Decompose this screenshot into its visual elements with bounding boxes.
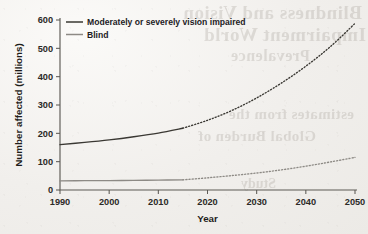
series-observed-1 [60,180,183,181]
x-axis-ticks: 1990200020102020203020402050 [50,190,365,207]
chart-canvas: 0100200300400500600 19902000201020202030… [0,0,368,234]
data-series-group [60,23,355,181]
x-tick-label: 2010 [148,197,168,207]
legend-label-1: Blind [87,30,108,40]
x-tick-label: 2040 [296,197,316,207]
x-axis-title: Year [197,213,218,224]
y-tick-label: 100 [38,157,53,167]
y-tick-label: 500 [38,44,53,54]
y-axis-title: Number affected (millions) [13,43,24,167]
chart-legend: Moderately or severely vision impairedBl… [66,17,246,39]
y-tick-label: 300 [38,100,53,110]
y-tick-label: 0 [48,185,53,195]
series-projected-1 [183,157,355,179]
series-observed-0 [60,128,183,144]
x-tick-label: 1990 [50,197,70,207]
y-tick-label: 600 [38,15,53,25]
axis-spines [60,18,357,190]
legend-label-0: Moderately or severely vision impaired [87,17,246,27]
x-tick-label: 2030 [246,197,266,207]
y-axis-ticks: 0100200300400500600 [38,15,60,195]
y-tick-label: 200 [38,129,53,139]
series-projected-0 [183,23,355,128]
y-tick-label: 400 [38,72,53,82]
line-chart-figure: 0100200300400500600 19902000201020202030… [0,0,368,234]
x-tick-label: 2050 [345,197,365,207]
x-tick-label: 2020 [197,197,217,207]
x-tick-label: 2000 [99,197,119,207]
